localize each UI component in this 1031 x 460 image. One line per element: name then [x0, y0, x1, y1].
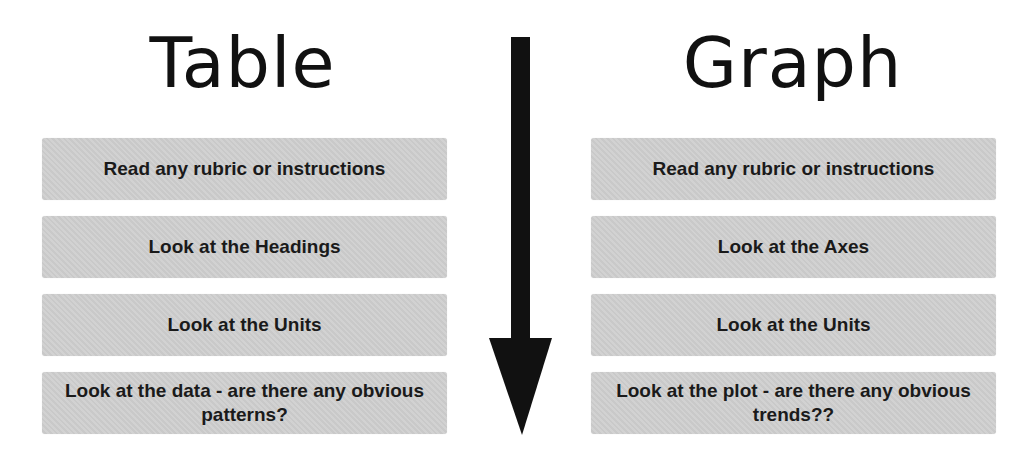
table-step-2: Look at the Headings [42, 216, 447, 278]
table-step-1: Read any rubric or instructions [42, 138, 447, 200]
graph-step-2: Look at the Axes [591, 216, 996, 278]
graph-step-3: Look at the Units [591, 294, 996, 356]
graph-step-1: Read any rubric or instructions [591, 138, 996, 200]
table-step-4: Look at the data - are there any obvious… [42, 372, 447, 434]
arrow-down-icon [485, 35, 557, 440]
graph-column-title: Graph [590, 22, 995, 104]
table-column-title: Table [40, 22, 445, 104]
table-step-3: Look at the Units [42, 294, 447, 356]
graph-step-4: Look at the plot - are there any obvious… [591, 372, 996, 434]
